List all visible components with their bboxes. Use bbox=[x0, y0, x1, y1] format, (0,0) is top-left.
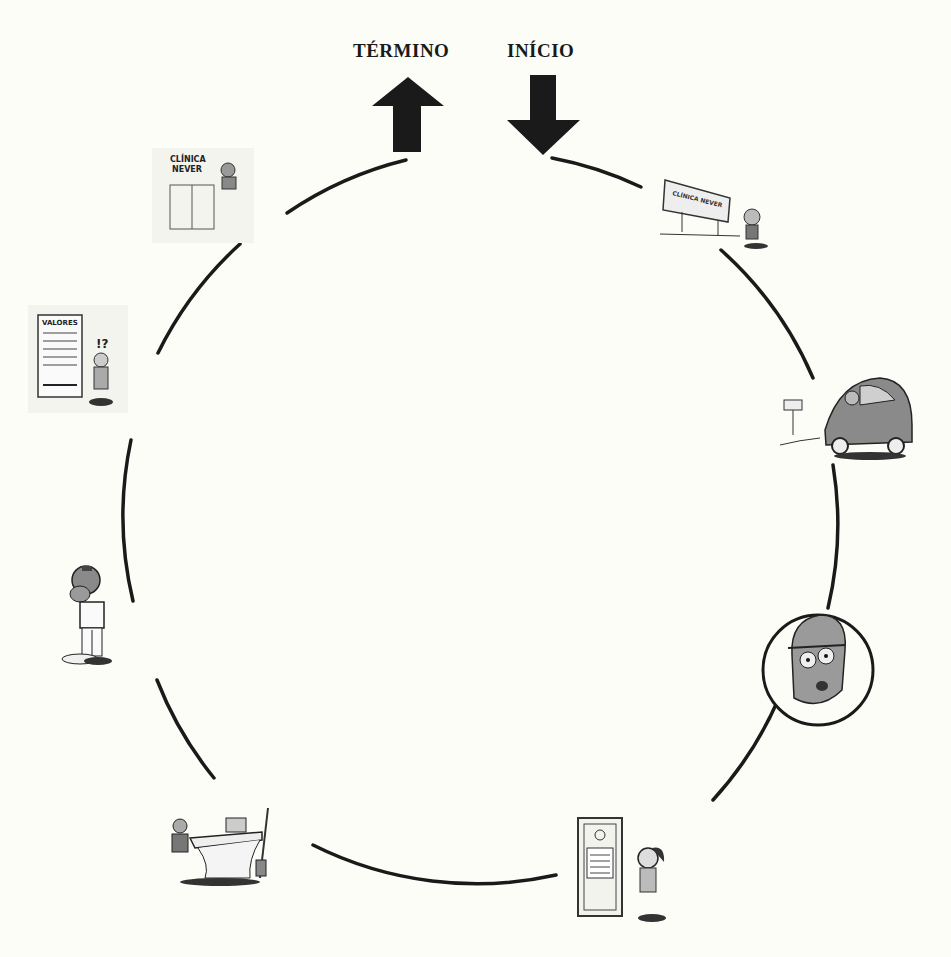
svg-text:CLÍNICA: CLÍNICA bbox=[170, 153, 206, 164]
svg-text:VALORES: VALORES bbox=[42, 319, 78, 327]
worried-face-illustration bbox=[763, 615, 873, 725]
dentist-standing-illustration bbox=[62, 566, 112, 665]
billboard-illustration: CLÍNICA NEVER bbox=[660, 180, 768, 249]
arc-segment bbox=[721, 250, 813, 378]
arc-segment bbox=[287, 160, 406, 213]
waiting-door-illustration bbox=[578, 818, 666, 922]
down-arrow-icon bbox=[507, 75, 580, 155]
svg-text:NEVER: NEVER bbox=[172, 165, 202, 174]
arc-segment bbox=[313, 845, 556, 884]
cycle-arcs bbox=[123, 158, 838, 884]
reception-desk-illustration bbox=[172, 808, 268, 886]
price-board-illustration: VALORES !? bbox=[28, 305, 128, 413]
clinic-entrance-illustration: CLÍNICA NEVER bbox=[152, 148, 254, 243]
arc-segment bbox=[713, 700, 778, 800]
up-arrow-icon bbox=[372, 77, 444, 152]
svg-text:!?: !? bbox=[96, 337, 108, 351]
car-arrival-illustration bbox=[780, 378, 912, 460]
arc-segment bbox=[123, 440, 133, 601]
arc-segment bbox=[157, 680, 214, 778]
arc-segment bbox=[828, 465, 838, 608]
cycle-diagram: CLÍNICA NEVER CLÍNICA NEVER VALORES !? bbox=[0, 0, 951, 957]
arc-segment bbox=[552, 158, 641, 187]
arc-segment bbox=[158, 244, 240, 353]
